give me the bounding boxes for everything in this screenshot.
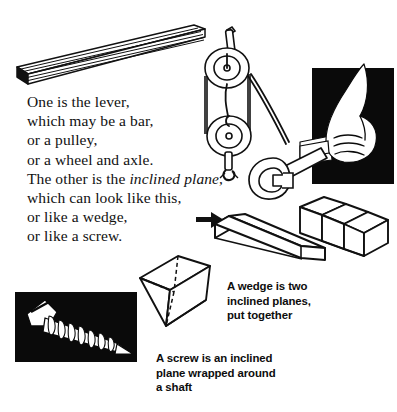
- screw-caption-line-3: a shaft: [156, 380, 331, 395]
- body-line-1: One is the lever,: [27, 92, 237, 111]
- body-copy-block: One is the lever, which may be a bar, or…: [27, 92, 237, 246]
- body-line-6: which can look like this,: [27, 188, 237, 207]
- lever-bar-illustration: [2, 22, 207, 90]
- body-line-2: which may be a bar,: [27, 111, 237, 130]
- body-line-3: or a pulley,: [27, 130, 237, 149]
- body-line-5: The other is the inclined plane,: [27, 169, 237, 188]
- body-line-5-suffix: ,: [219, 170, 223, 187]
- wedge-caption-line-1: A wedge is two: [227, 279, 377, 294]
- body-line-7: or like a wedge,: [27, 207, 237, 226]
- screw-illustration: [15, 292, 140, 364]
- wedge-caption-line-3: put together: [227, 308, 377, 323]
- illustration-page: One is the lever, which may be a bar, or…: [0, 0, 397, 412]
- screw-caption-line-1: A screw is an inclined: [156, 351, 331, 366]
- wedge-caption: A wedge is two inclined planes, put toge…: [227, 279, 377, 323]
- screw-caption: A screw is an inclined plane wrapped aro…: [156, 351, 331, 395]
- body-line-4: or a wheel and axle.: [27, 150, 237, 169]
- screw-caption-line-2: plane wrapped around: [156, 366, 331, 381]
- wedge-3d-illustration: [136, 252, 218, 332]
- inclined-plane-term: inclined plane: [129, 170, 219, 187]
- body-line-8: or like a screw.: [27, 226, 237, 245]
- wedge-caption-line-2: inclined planes,: [227, 294, 377, 309]
- body-line-5-prefix: The other is the: [27, 170, 129, 187]
- stairs-illustration: [296, 193, 392, 267]
